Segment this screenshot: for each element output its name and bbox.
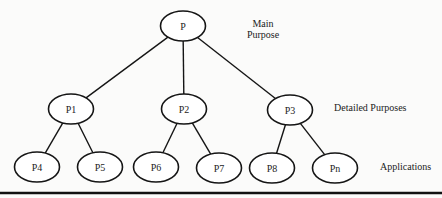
node-p2: P2	[162, 94, 207, 124]
purpose-hierarchy-diagram: PP1P2P3P4P5P6P7P8Pn Main Purpose Detaile…	[0, 0, 442, 198]
edge-p1-p5	[78, 123, 93, 153]
node-label: P2	[179, 104, 190, 115]
edge-p1-p4	[45, 123, 63, 153]
edge-p-p1	[86, 37, 168, 98]
node-label: P8	[267, 163, 278, 174]
edge-p2-p7	[192, 123, 210, 154]
edge-p3-pn	[300, 123, 324, 154]
edge-p3-p8	[277, 125, 286, 154]
node-label: P7	[214, 163, 225, 174]
edge-p-p2	[183, 41, 184, 94]
node-label: P5	[95, 162, 106, 173]
level-label-main-line2: Purpose	[247, 29, 280, 40]
node-p4: P4	[15, 152, 60, 182]
level-label-main-line1: Main	[252, 18, 273, 29]
node-label: P4	[32, 162, 43, 173]
level-label-applications: Applications	[380, 161, 431, 172]
edge-p-p3	[198, 37, 276, 98]
level-label-detailed: Detailed Purposes	[334, 102, 407, 113]
node-pn: Pn	[313, 153, 358, 183]
node-p5: P5	[78, 152, 123, 182]
node-p7: P7	[197, 153, 242, 183]
node-label: P3	[285, 105, 296, 116]
node-label: P6	[151, 162, 162, 173]
node-p: P	[161, 11, 206, 41]
node-p6: P6	[134, 152, 179, 182]
node-p8: P8	[250, 153, 295, 183]
level-labels: Main Purpose Detailed Purposes Applicati…	[247, 18, 431, 172]
node-label: P1	[66, 104, 77, 115]
node-label: P	[180, 21, 186, 32]
nodes-group: PP1P2P3P4P5P6P7P8Pn	[15, 11, 358, 183]
node-p3: P3	[268, 95, 313, 125]
node-p1: P1	[49, 94, 94, 124]
node-label: Pn	[330, 163, 341, 174]
edge-p2-p6	[163, 123, 177, 152]
